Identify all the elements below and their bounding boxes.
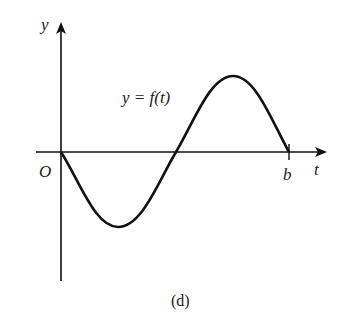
curve-label: y = f(t): [120, 88, 171, 107]
b-label: b: [283, 165, 292, 184]
t-axis-label: t: [314, 160, 320, 179]
graph-figure: y t O b y = f(t) (d): [0, 0, 349, 320]
y-axis-label: y: [39, 15, 49, 34]
origin-label: O: [39, 162, 51, 181]
figure-caption: (d): [171, 292, 190, 310]
